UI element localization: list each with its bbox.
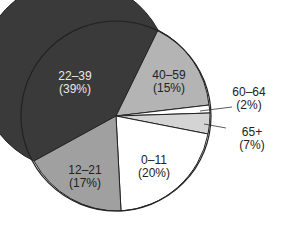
slice-percent: (39%): [58, 83, 91, 96]
slice-percent: (17%): [68, 177, 101, 190]
pie-chart: [0, 0, 293, 239]
label-60-64: 60–64 (2%): [232, 86, 265, 112]
slice-percent: (7%): [239, 139, 264, 152]
label-22-39: 22–39 (39%): [58, 70, 91, 96]
slice-percent: (2%): [232, 99, 265, 112]
label-65-plus: 65+ (7%): [239, 126, 264, 152]
label-0-11: 0–11 (20%): [138, 154, 170, 180]
slice-percent: (15%): [152, 82, 185, 95]
slice-percent: (20%): [138, 167, 170, 180]
label-12-21: 12–21 (17%): [68, 164, 101, 190]
label-40-59: 40–59 (15%): [152, 69, 185, 95]
